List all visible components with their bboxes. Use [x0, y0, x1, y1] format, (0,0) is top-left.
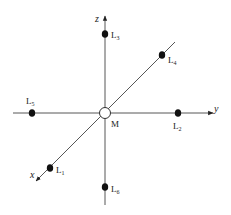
axis-diagram: zyxL1L2L3L4L5L6M: [0, 0, 231, 215]
point-l6-label: L6: [111, 184, 120, 195]
point-l6-marker: [102, 183, 108, 191]
point-l5-label: L5: [26, 96, 35, 107]
z-axis-label: z: [94, 13, 99, 24]
point-l2-label: L2: [173, 121, 182, 132]
x-axis-label: x: [29, 169, 35, 180]
point-l1-marker: [47, 164, 53, 172]
point-l1-label: L1: [56, 165, 65, 176]
point-l2-marker: [175, 109, 181, 117]
center-label: M: [111, 119, 119, 129]
center-point-m: [100, 108, 111, 119]
point-l5-marker: [29, 109, 35, 117]
point-l4-marker: [159, 51, 165, 59]
point-l3-label: L3: [111, 30, 120, 41]
point-l3-marker: [102, 30, 108, 38]
diagram-canvas: zyxL1L2L3L4L5L6M: [0, 0, 231, 215]
point-l4-label: L4: [168, 55, 177, 66]
y-axis-label: y: [213, 103, 219, 114]
